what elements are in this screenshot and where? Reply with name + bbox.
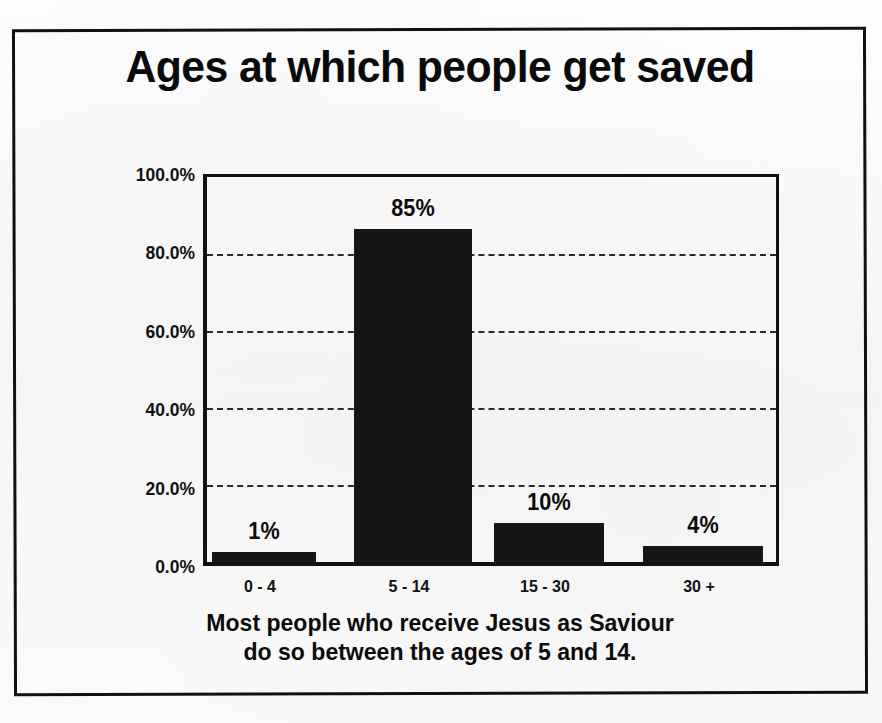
- gridline-20: [207, 485, 776, 487]
- y-tick-40: 40.0%: [107, 400, 195, 419]
- x-tick-15-30: 15 - 30: [493, 578, 596, 595]
- bar-30-plus[interactable]: [643, 546, 763, 562]
- caption-line-2: do so between the ages of 5 and 14.: [123, 637, 757, 666]
- bar-label-0-4: 1%: [215, 520, 313, 543]
- x-tick-0-4: 0 - 4: [211, 578, 309, 595]
- gridline-40: [207, 408, 776, 410]
- chart-title: Ages at which people get saved: [60, 40, 820, 94]
- y-tick-60: 60.0%: [107, 321, 195, 340]
- y-tick-20: 20.0%: [107, 478, 195, 497]
- y-tick-0: 0.0%: [107, 557, 195, 576]
- chart-caption: Most people who receive Jesus as Saviour…: [123, 608, 757, 666]
- bar-5-14[interactable]: [354, 229, 472, 562]
- bar-label-30-plus: 4%: [647, 514, 760, 537]
- gridline-80: [207, 254, 776, 256]
- y-tick-80: 80.0%: [107, 243, 195, 262]
- gridline-60: [207, 331, 776, 333]
- chart-page: Ages at which people get saved 100.0% 80…: [0, 0, 882, 723]
- x-tick-30-plus: 30 +: [643, 578, 756, 595]
- plot-area-wrapper: 1% 85% 10% 4%: [203, 174, 779, 566]
- bar-15-30[interactable]: [494, 523, 604, 562]
- bar-label-5-14: 85%: [358, 197, 469, 220]
- x-tick-5-14: 5 - 14: [354, 578, 465, 595]
- plot-area: 1% 85% 10% 4%: [203, 174, 779, 566]
- x-axis-tick-labels: 0 - 4 5 - 14 15 - 30 30 +: [203, 578, 779, 602]
- caption-line-1: Most people who receive Jesus as Saviour: [123, 608, 757, 637]
- bar-label-15-30: 10%: [497, 491, 600, 514]
- bar-0-4[interactable]: [212, 552, 316, 562]
- y-axis-tick-labels: 100.0% 80.0% 60.0% 40.0% 20.0% 0.0%: [95, 174, 195, 566]
- y-tick-100: 100.0%: [107, 165, 195, 184]
